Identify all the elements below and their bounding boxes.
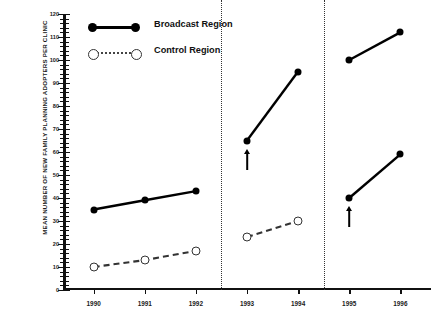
y-axis-tick-label: 120 — [50, 11, 59, 17]
x-axis-tick-label: 1991 — [138, 300, 152, 307]
data-point — [346, 57, 353, 64]
up-arrow-icon — [243, 149, 251, 171]
y-axis-tick-label: 90 — [53, 80, 59, 86]
data-point — [397, 151, 404, 158]
y-axis-tick-label: 10 — [53, 264, 59, 270]
up-arrow-icon — [345, 206, 353, 228]
x-axis-tick-label: 1990 — [87, 300, 101, 307]
x-axis-tick-label: 1994 — [291, 300, 305, 307]
legend-marker-control-icon — [86, 47, 142, 59]
y-axis-tick-label: 30 — [53, 218, 59, 224]
y-axis-tick — [58, 290, 70, 291]
legend-label-control: Control Region — [154, 45, 220, 55]
data-point — [295, 68, 302, 75]
y-axis-tick-label: 110 — [50, 34, 59, 40]
x-axis-tick-label: 1992 — [189, 300, 203, 307]
y-axis-tick-label: 80 — [53, 103, 59, 109]
series-line — [349, 32, 400, 60]
y-axis-tick-label: 0 — [56, 287, 59, 293]
data-point — [192, 188, 199, 195]
y-axis-tick-label: 70 — [53, 126, 59, 132]
y-axis-tick-label: 60 — [53, 149, 59, 155]
data-point — [89, 263, 98, 272]
y-axis-title: MEAN NUMBER OF NEW FAMILY PLANNING ADOPT… — [41, 0, 48, 268]
y-axis-tick-label: 50 — [53, 172, 59, 178]
y-axis-tick-label: 100 — [50, 57, 59, 63]
series-line — [247, 72, 298, 141]
y-axis-tick-label: 20 — [53, 241, 59, 247]
x-axis-tick-label: 1993 — [240, 300, 254, 307]
data-point — [141, 197, 148, 204]
data-point — [191, 246, 200, 255]
data-point — [244, 137, 251, 144]
chart-figure: MEAN NUMBER OF NEW FAMILY PLANNING ADOPT… — [0, 0, 443, 321]
series-line — [247, 221, 298, 237]
y-axis-tick-label: 40 — [53, 195, 59, 201]
data-point — [243, 233, 252, 242]
data-point — [397, 29, 404, 36]
data-point — [90, 206, 97, 213]
x-axis-tick-label: 1996 — [393, 300, 407, 307]
data-point — [140, 256, 149, 265]
data-point — [294, 217, 303, 226]
x-axis-tick-label: 1995 — [342, 300, 356, 307]
legend-label-broadcast: Broadcast Region — [154, 19, 233, 29]
series-line — [349, 154, 400, 198]
legend-marker-broadcast-icon — [86, 21, 142, 33]
data-point — [346, 195, 353, 202]
